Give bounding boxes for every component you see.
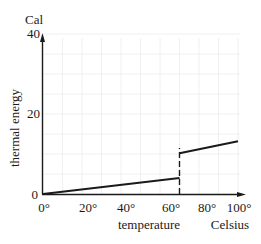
x-tick-40: 40°: [117, 200, 135, 215]
y-tick-40: 40: [27, 26, 40, 41]
y-unit-label: Cal: [25, 12, 43, 27]
series-line-1: [180, 141, 239, 153]
series-line-0: [43, 178, 180, 194]
x-tick-20: 20°: [79, 200, 97, 215]
x-axis-arrow-icon: [237, 192, 246, 197]
y-axis-title: thermal energy: [7, 88, 22, 167]
x-tick-80: 80°: [198, 200, 216, 215]
grid-lines: [43, 34, 240, 194]
x-tick-100: 100°: [227, 200, 252, 215]
x-tick-60: 60°: [162, 200, 180, 215]
y-tick-0: 0: [32, 187, 39, 202]
y-tick-20: 20: [27, 106, 40, 121]
x-unit-label: Celsius: [211, 217, 249, 232]
x-tick-0: 0°: [38, 200, 50, 215]
x-axis-title: temperature: [118, 217, 180, 232]
thermal-energy-chart: Cal 40 20 0 thermal energy 0° 20° 40° 60…: [0, 0, 261, 244]
